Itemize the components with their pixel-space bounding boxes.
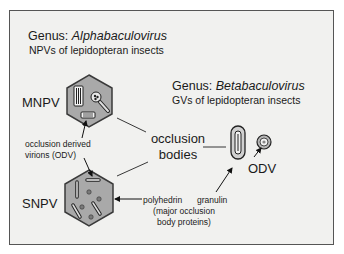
snpv-to-ob-line [117, 162, 148, 176]
alpha-genus-prefix: Genus: [28, 29, 72, 43]
beta-genus-name: Betabaculovirus [216, 79, 305, 93]
odv-ring-icon [257, 135, 271, 149]
odv-label-line2: virions (ODV) [25, 151, 76, 160]
ob-label-line1: occlusion [150, 132, 206, 146]
odv-ring-arrow [254, 148, 261, 157]
snpv-polyhedron-icon [65, 170, 113, 226]
beta-description: GVs of lepidopteran insects [172, 95, 300, 107]
protein-label-line1: (major occlusion [148, 207, 220, 216]
alpha-genus-title: Genus: Alphabaculovirus [28, 30, 167, 44]
protein-label-line2: body proteins) [148, 218, 220, 227]
beta-genus-prefix: Genus: [172, 79, 216, 93]
granule-capsule-icon [231, 126, 245, 159]
granulin-arrow [216, 168, 232, 192]
alpha-genus-name: Alphabaculovirus [72, 29, 167, 43]
alpha-description: NPVs of lepidopteran insects [29, 45, 164, 57]
odv-label-line1: occlusion derived [25, 140, 91, 149]
mnpv-polyhedron-icon [67, 75, 112, 127]
ob-label-line2: bodies [150, 148, 206, 162]
granulin-label: granulin [197, 196, 227, 205]
polyhedrin-label: polyhedrin [143, 196, 182, 205]
odv-short-label: ODV [248, 162, 276, 176]
mnpv-label: MNPV [22, 96, 60, 110]
beta-genus-title: Genus: Betabaculovirus [172, 80, 305, 94]
snpv-label: SNPV [22, 197, 57, 211]
mnpv-to-ob-line [117, 118, 146, 132]
